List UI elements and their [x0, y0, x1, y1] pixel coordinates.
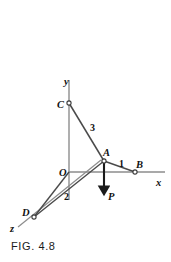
point-label-D: D [21, 207, 30, 218]
figure-caption: FIG. 4.8 [11, 240, 56, 252]
joint-marker-A [102, 159, 106, 163]
dimension-label-AB: 1 [119, 158, 124, 169]
axis-label-z: z [9, 223, 15, 234]
joint-marker-C [67, 101, 71, 105]
dimension-label-AD: 2 [64, 191, 69, 202]
figure-container: y x z O A B C D 3 1 2 P FIG. 4.8 [0, 0, 171, 262]
point-label-C: C [57, 99, 65, 110]
point-label-O: O [59, 167, 67, 178]
free-body-diagram: y x z O A B C D 3 1 2 P [0, 0, 171, 262]
dimension-label-CA: 3 [90, 122, 95, 133]
joint-marker-B [133, 170, 137, 174]
axis-label-x: x [155, 177, 161, 188]
load-label-P: P [108, 191, 115, 202]
dimension-labels-group: 3 1 2 [64, 122, 124, 202]
axis-label-y: y [62, 76, 69, 87]
joint-marker-D [32, 215, 36, 219]
axis-labels-group: y x z [9, 76, 161, 234]
member-CA [69, 103, 104, 161]
point-label-B: B [135, 159, 143, 170]
axes-group [18, 80, 165, 227]
point-labels-group: O A B C D [21, 99, 143, 218]
point-label-A: A [102, 147, 110, 158]
